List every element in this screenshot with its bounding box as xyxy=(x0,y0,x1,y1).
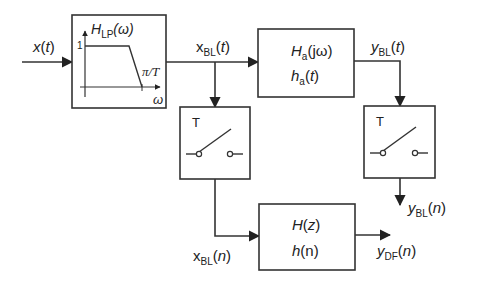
digital-impulse-response: h(n) xyxy=(292,242,319,259)
sampler-right-period: T xyxy=(376,114,384,129)
block-diagram: x(t) 1 HLP(ω) π/T ω xBL(t) Ha(jω) ha(t) … xyxy=(0,0,477,287)
input-signal-label: x(t) xyxy=(32,38,55,55)
analog-filter-box xyxy=(258,29,354,97)
y-tick-1: 1 xyxy=(77,40,83,51)
cutoff-label: π/T xyxy=(142,64,160,79)
xbl-n-arrow xyxy=(215,179,259,236)
sampler-right-block: T xyxy=(364,106,435,178)
ybl-t-arrow xyxy=(354,61,400,106)
xbl-n-label: xBL(n) xyxy=(193,247,231,267)
ybl-t-label: yBL(t) xyxy=(370,38,405,58)
sampler-left-period: T xyxy=(192,115,200,130)
ybl-n-signal: yBL(n) xyxy=(400,178,446,219)
digital-filter-box xyxy=(259,204,355,270)
omega-axis-label: ω xyxy=(153,92,163,107)
xbl-t-label: xBL(t) xyxy=(196,38,230,58)
xbl-n-signal: xBL(n) xyxy=(193,179,259,267)
ydf-n-signal: yDF(n) xyxy=(355,235,416,262)
ybl-n-label: yBL(n) xyxy=(407,199,446,219)
input-signal: x(t) xyxy=(22,38,72,62)
lowpass-filter-block: 1 HLP(ω) π/T ω xyxy=(72,15,166,108)
ybl-t-signal: yBL(t) xyxy=(354,38,405,106)
sampler-left-box xyxy=(180,107,250,179)
digital-transfer-function: H(z) xyxy=(292,216,320,233)
xbl-t-signal: xBL(t) xyxy=(166,38,258,107)
ydf-n-label: yDF(n) xyxy=(376,242,416,262)
sampler-left-block: T xyxy=(180,107,250,179)
analog-filter-block: Ha(jω) ha(t) xyxy=(258,29,354,97)
digital-filter-block: H(z) h(n) xyxy=(259,204,355,270)
sampler-right-box xyxy=(364,106,435,178)
